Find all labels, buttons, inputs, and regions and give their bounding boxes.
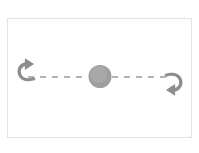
diagram-canvas — [0, 0, 199, 153]
figure-root — [0, 0, 199, 153]
central-mass-highlight — [90, 66, 107, 83]
